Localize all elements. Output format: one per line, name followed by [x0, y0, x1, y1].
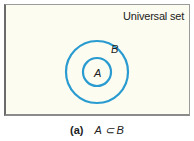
venn-diagram: A B [0, 0, 194, 141]
figure-caption: (a) A ⊂ B [0, 124, 194, 137]
set-a-label: A [93, 67, 101, 79]
caption-tag: (a) [70, 124, 83, 136]
set-b-label: B [111, 43, 118, 55]
caption-expression: A ⊂ B [95, 124, 124, 136]
